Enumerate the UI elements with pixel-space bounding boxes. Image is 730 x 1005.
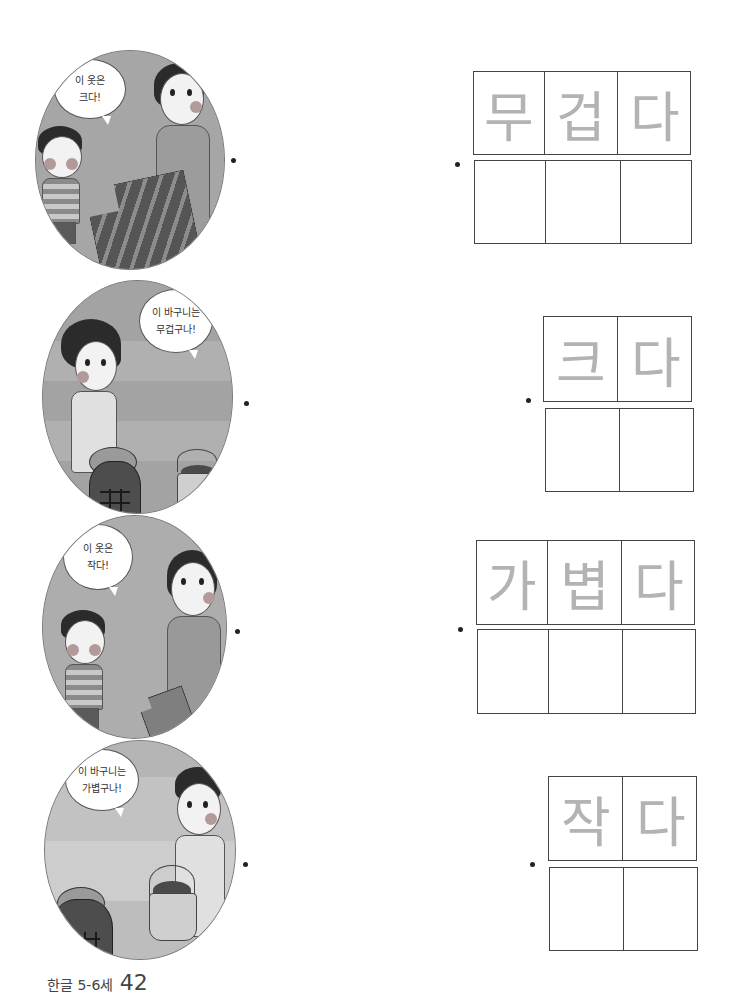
write-cell[interactable]	[620, 409, 695, 491]
illustration-3: 이 옷은 작다!	[42, 515, 227, 739]
write-cell[interactable]	[546, 409, 620, 491]
write-cell[interactable]	[478, 630, 549, 713]
small-basket	[177, 473, 219, 514]
write-cell[interactable]	[549, 630, 623, 713]
trace-char: 겁	[545, 72, 618, 154]
trace-char: 크	[544, 317, 618, 401]
page-footer: 한글 5-6세 42	[47, 970, 148, 995]
speech-bubble-2: 이 바구니는 무겁구나!	[139, 289, 213, 353]
match-dot-right-3[interactable]	[458, 627, 463, 632]
write-cell[interactable]	[624, 868, 699, 950]
write-cell[interactable]	[623, 630, 697, 713]
write-row-4[interactable]	[549, 867, 698, 951]
match-dot-left-4[interactable]	[243, 862, 248, 867]
page-number: 42	[120, 970, 148, 995]
trace-row-3: 가 볍 다	[476, 540, 695, 625]
trace-row-1: 무 겁 다	[473, 71, 691, 155]
illustration-4: 이 바구니는 가볍구나!	[44, 740, 236, 960]
speech-bubble-4: 이 바구니는 가볍구나!	[65, 749, 139, 811]
trace-row-2: 크 다	[543, 316, 692, 402]
write-row-1[interactable]	[474, 160, 692, 244]
trace-char: 작	[549, 777, 623, 860]
write-row-3[interactable]	[477, 629, 696, 714]
write-cell[interactable]	[621, 161, 693, 243]
match-dot-right-4[interactable]	[530, 862, 535, 867]
match-dot-right-2[interactable]	[526, 398, 531, 403]
trace-char: 볍	[548, 541, 622, 624]
match-dot-left-3[interactable]	[235, 629, 240, 634]
cropped-header	[40, 0, 180, 4]
write-cell[interactable]	[475, 161, 546, 243]
match-dot-left-1[interactable]	[231, 158, 236, 163]
match-dot-left-2[interactable]	[244, 401, 249, 406]
book-title: 한글 5-6세	[47, 977, 113, 993]
write-cell[interactable]	[546, 161, 621, 243]
write-cell[interactable]	[550, 868, 624, 950]
trace-char: 가	[477, 541, 548, 624]
light-basket	[149, 893, 197, 941]
match-dot-right-1[interactable]	[455, 162, 460, 167]
illustration-1: 이 옷은 크다!	[35, 50, 225, 270]
trace-char: 다	[622, 541, 696, 624]
write-row-2[interactable]	[545, 408, 694, 492]
speech-bubble-3: 이 옷은 작다!	[63, 524, 133, 590]
heavy-sack	[89, 461, 141, 514]
illustration-2: 이 바구니는 무겁구나!	[42, 280, 233, 514]
speech-bubble-1: 이 옷은 크다!	[54, 59, 126, 119]
heavy-sack	[51, 899, 113, 960]
trace-char: 다	[623, 777, 698, 860]
trace-row-4: 작 다	[548, 776, 697, 861]
trace-char: 다	[618, 72, 692, 154]
trace-char: 무	[474, 72, 545, 154]
trace-char: 다	[618, 317, 693, 401]
